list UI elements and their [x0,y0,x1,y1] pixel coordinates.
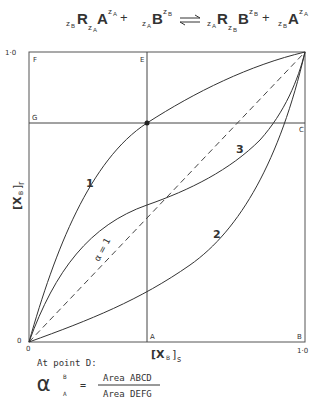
fraction-numerator: Area ABCD [103,373,152,383]
y-tick-bottom: 0 [17,337,21,345]
caption-intro: At point D: [37,358,97,368]
point-label-C: C [299,126,304,134]
point-label-A: A [150,333,155,341]
point-D-marker [145,121,150,126]
point-label-B: B [297,333,302,341]
alpha-subscript: A [63,390,67,397]
point-label-E: E [140,56,144,64]
alpha-superscript: B [63,373,67,380]
caption-formula: At point D: α B A = Area ABCD Area DEFG [0,345,318,407]
fraction-denominator: Area DEFG [103,389,152,399]
diagonal-label: α = 1 [92,236,113,263]
point-label-G: G [32,114,37,122]
equals-sign: = [80,380,86,391]
svg-text:r: r [17,181,26,185]
y-tick-top: 1·0 [5,49,16,57]
y-axis-label: [X B ] r [11,181,26,210]
svg-text:[X: [X [11,196,24,210]
alpha-symbol: α [37,371,50,396]
svg-text:B: B [17,191,24,195]
point-label-F: F [33,56,37,64]
curve-label-3: 3 [236,143,244,156]
curve-label-1: 1 [86,177,94,190]
curve-label-2: 2 [213,228,221,241]
